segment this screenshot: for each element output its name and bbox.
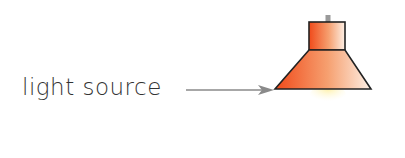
lamp-diagram (0, 0, 405, 158)
arrow-icon (186, 85, 274, 95)
lamp-top-box (309, 22, 345, 50)
lamp-shade (275, 50, 371, 89)
diagram-canvas: light source (0, 0, 405, 158)
lamp-icon (275, 15, 371, 105)
